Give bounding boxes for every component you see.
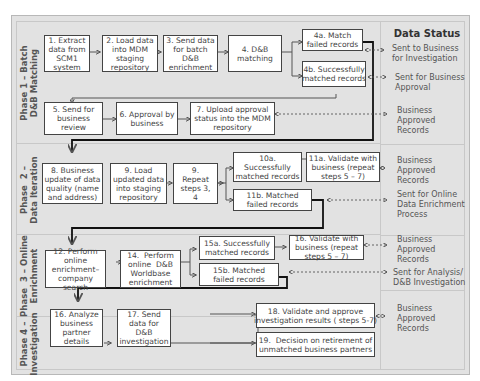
step-14-worldbase: 14. Perform online D&B Worldbase enrichm… xyxy=(120,250,181,288)
status-divider xyxy=(380,290,465,291)
step-11a-validate: 11a. Validate with business (repeat step… xyxy=(306,152,380,182)
status-sent-for-business-approval: Sent for Business Approval xyxy=(395,73,465,93)
status-business-approved-1: Business Approved Records xyxy=(397,106,435,136)
phase-2-label: Phase 2 – Data Iteration xyxy=(16,144,42,235)
status-divider xyxy=(380,144,465,145)
status-business-approved-4: Business Approved Records xyxy=(397,304,435,334)
step-6-approval: 6. Approval by business xyxy=(116,102,178,135)
step-15b-failed: 15b. Matched failed records xyxy=(199,263,279,286)
step-9-repeat: 9. Repeat steps 3, 4 xyxy=(173,163,218,204)
step-17-send-investigation: 17. Send data for D&B investigation xyxy=(117,309,171,347)
step-12-online-enrichment: 12. Perform online enrichment– company s… xyxy=(45,250,106,288)
phase-4-label: Phase 4 – Investigation xyxy=(16,317,42,370)
step-4-dnb-matching: 4. D&B matching xyxy=(228,35,282,72)
status-business-approved-3: Business Approved Records xyxy=(397,235,435,265)
step-11b-failed: 11b. Matched failed records xyxy=(233,189,312,211)
status-business-approved-2: Business Approved Records xyxy=(397,156,435,186)
step-15a-matched: 15a. Successfully matched records xyxy=(199,236,275,260)
step-18-validate-approve: 18. Validate and approve investigation r… xyxy=(256,303,375,328)
step-16-validate: 16. Validate with business (repeat steps… xyxy=(289,235,364,260)
status-sent-for-analysis: Sent for Analysis/ D&B Investigation xyxy=(393,268,465,288)
step-8-business-update: 8. Business update of data quality (name… xyxy=(42,163,103,204)
step-4a-match-failed: 4a. Match failed records xyxy=(302,29,363,51)
step-2-load-data: 2. Load data into MDM staging repository xyxy=(102,35,158,72)
step-19-retirement-decision: 19. Decision on retirement of unmatched … xyxy=(256,332,375,357)
data-status-title: Data Status xyxy=(392,28,462,39)
step-10a-matched: 10a. Successfully matched records xyxy=(233,152,302,182)
status-sent-to-business-investigation: Sent to Business for Investigation xyxy=(392,44,459,64)
step-9-load-updated: 9. Load updated data into staging reposi… xyxy=(110,163,167,204)
status-sent-for-online-enrichment: Sent for Online Data Enrichment Process xyxy=(397,190,465,220)
phase-1-label: Phase 1 – Batch D&B Matching xyxy=(16,21,42,144)
step-7-upload-status: 7. Upload approval status into the MDM r… xyxy=(190,102,275,135)
step-4b-matched: 4b. Successfully matched records xyxy=(302,61,366,87)
step-1-extract-data: 1. Extract data from SCM1 system xyxy=(44,35,90,72)
step-3-send-batch: 3. Send data for batch D&B enrichment xyxy=(163,35,218,72)
step-5-business-review: 5. Send for business review xyxy=(44,102,103,135)
phase-3-label: Phase 3 – Online Enrichment xyxy=(16,235,42,317)
step-16-analyze: 16. Analyze business partner details xyxy=(50,309,103,347)
